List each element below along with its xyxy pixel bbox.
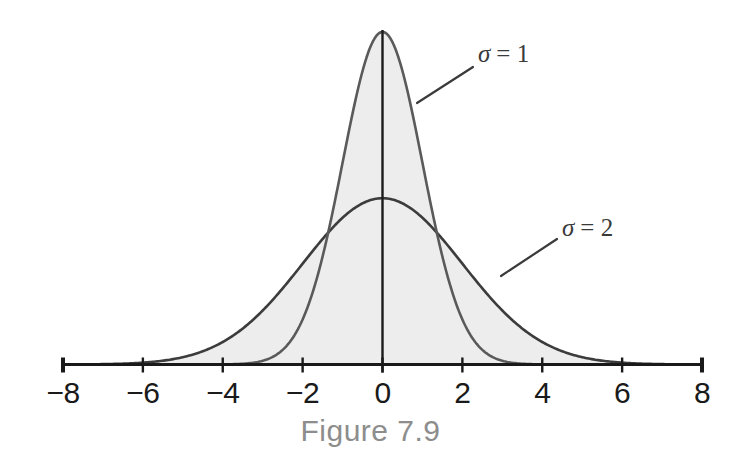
axis-tick-label: 0 — [374, 376, 390, 409]
equals-and-value: = 2 — [580, 214, 613, 241]
leader-line-sigma-2 — [501, 239, 557, 276]
axis-tick-label: −2 — [286, 376, 319, 409]
axis-tick-label: −6 — [126, 376, 159, 409]
figure-caption: Figure 7.9 — [0, 414, 741, 448]
axis-tick-label: −8 — [46, 376, 79, 409]
sigma-symbol: σ — [562, 214, 576, 241]
figure-container: −8−6−4−202468 σ= 1 σ= 2 Figure 7.9 — [0, 0, 741, 473]
normal-distribution-chart: −8−6−4−202468 σ= 1 σ= 2 — [0, 0, 741, 473]
axis-tick-label: 2 — [454, 376, 470, 409]
axis-tick-label: −4 — [206, 376, 239, 409]
axis-tick-label: 4 — [534, 376, 550, 409]
axis-tick-label: 6 — [614, 376, 630, 409]
equals-and-value: = 1 — [496, 40, 529, 67]
leader-line-sigma-1 — [417, 67, 473, 103]
axis-tick-label: 8 — [694, 376, 710, 409]
annotation-label-sigma-2: σ= 2 — [562, 214, 613, 241]
sigma-symbol: σ — [478, 40, 492, 67]
axis-tick-labels: −8−6−4−202468 — [46, 376, 710, 409]
annotation-label-sigma-1: σ= 1 — [478, 40, 529, 67]
